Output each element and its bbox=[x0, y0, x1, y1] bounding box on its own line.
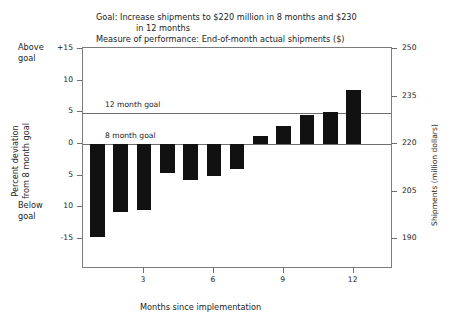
title-line-1: Goal: Increase shipments to $220 million… bbox=[96, 12, 396, 23]
reference-label-8-month-goal: 8 month goal bbox=[105, 131, 156, 140]
title-line-2: in 12 months bbox=[96, 23, 396, 34]
y-tick-label-1: 10 bbox=[40, 75, 73, 84]
y2-tick-label-3: 205 bbox=[402, 186, 417, 195]
bar-month-6 bbox=[207, 144, 222, 176]
y2-tick-1 bbox=[392, 96, 397, 97]
x-tick-label-2: 9 bbox=[273, 275, 293, 284]
title-line-3: Measure of performance: End-of-month act… bbox=[96, 34, 396, 45]
y2-tick-2 bbox=[392, 143, 397, 144]
y-tick-label-6: -15 bbox=[40, 233, 73, 242]
y2-tick-label-1: 235 bbox=[402, 91, 417, 100]
bar-month-10 bbox=[300, 115, 315, 144]
x-tick-1 bbox=[213, 268, 214, 273]
x-tick-label-3: 12 bbox=[343, 275, 363, 284]
x-axis-title: Months since implementation bbox=[140, 302, 261, 312]
y-tick-label-4: 5 bbox=[40, 170, 73, 179]
reference-label-12-month-goal: 12 month goal bbox=[105, 100, 160, 109]
y-tick-label-5: 10 bbox=[40, 201, 73, 210]
x-tick-0 bbox=[143, 268, 144, 273]
plot-inner: 8 month goal12 month goal bbox=[83, 48, 391, 267]
bar-month-3 bbox=[137, 144, 152, 210]
y2-tick-4 bbox=[392, 238, 397, 239]
x-tick-2 bbox=[283, 268, 284, 273]
bar-month-12 bbox=[346, 90, 361, 144]
y-tick-label-3: 0 bbox=[40, 138, 73, 147]
chart-page: Goal: Increase shipments to $220 million… bbox=[0, 0, 464, 326]
y-tick-label-2: 5 bbox=[40, 106, 73, 115]
y2-tick-label-2: 220 bbox=[402, 138, 417, 147]
reference-line-12-month-goal bbox=[83, 113, 391, 114]
y-axis-title: Percent deviation from 8 month goal bbox=[10, 96, 32, 226]
x-tick-label-1: 6 bbox=[203, 275, 223, 284]
x-tick-3 bbox=[353, 268, 354, 273]
bar-month-8 bbox=[253, 136, 268, 144]
bar-month-11 bbox=[323, 112, 338, 144]
bar-month-2 bbox=[113, 144, 128, 212]
bar-month-1 bbox=[90, 144, 105, 237]
bar-month-9 bbox=[276, 126, 291, 144]
y2-tick-0 bbox=[392, 48, 397, 49]
bar-month-4 bbox=[160, 144, 175, 173]
x-tick-label-0: 3 bbox=[133, 275, 153, 284]
y2-tick-label-4: 190 bbox=[402, 233, 417, 242]
y2-tick-label-0: 250 bbox=[402, 43, 417, 52]
y2-axis-title: Shipments (million dollars) bbox=[430, 115, 440, 235]
y2-tick-3 bbox=[392, 191, 397, 192]
bar-month-5 bbox=[183, 144, 198, 180]
y-tick-label-0: +15 bbox=[40, 43, 73, 52]
bar-month-7 bbox=[230, 144, 245, 169]
plot-area: 8 month goal12 month goal bbox=[82, 47, 392, 268]
